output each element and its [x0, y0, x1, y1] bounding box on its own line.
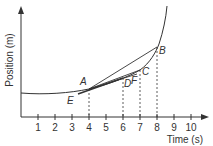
- x-tick-labels: 1 2 3 4 5 6 7 8 9 10: [35, 122, 197, 133]
- tick-label: 9: [171, 122, 177, 133]
- tick-label: 5: [103, 122, 109, 133]
- diagram-canvas: 1 2 3 4 5 6 7 8 9 10 Time (s) Position (…: [0, 0, 213, 146]
- tick-label: 8: [154, 122, 160, 133]
- x-axis-arrow-icon: [201, 114, 209, 120]
- position-time-diagram: 1 2 3 4 5 6 7 8 9 10 Time (s) Position (…: [0, 0, 213, 146]
- y-axis-label: Position (m): [4, 33, 15, 86]
- tick-label: 4: [86, 122, 92, 133]
- point-label-E: E: [67, 95, 74, 106]
- position-curve: [21, 6, 167, 94]
- tick-label: 6: [120, 122, 126, 133]
- point-label-A: A: [79, 76, 87, 87]
- x-axis-label: Time (s): [167, 134, 203, 145]
- tick-label: 3: [69, 122, 75, 133]
- tick-label: 2: [52, 122, 58, 133]
- tick-label: 10: [185, 122, 197, 133]
- tick-label: 7: [137, 122, 143, 133]
- point-label-F: F: [131, 75, 138, 86]
- point-label-B: B: [159, 45, 166, 56]
- point-labels: A B C D E F: [67, 45, 166, 106]
- point-label-C: C: [142, 66, 150, 77]
- tick-label: 1: [35, 122, 41, 133]
- y-axis-arrow-icon: [18, 6, 24, 14]
- dashed-drop-lines: [89, 47, 157, 117]
